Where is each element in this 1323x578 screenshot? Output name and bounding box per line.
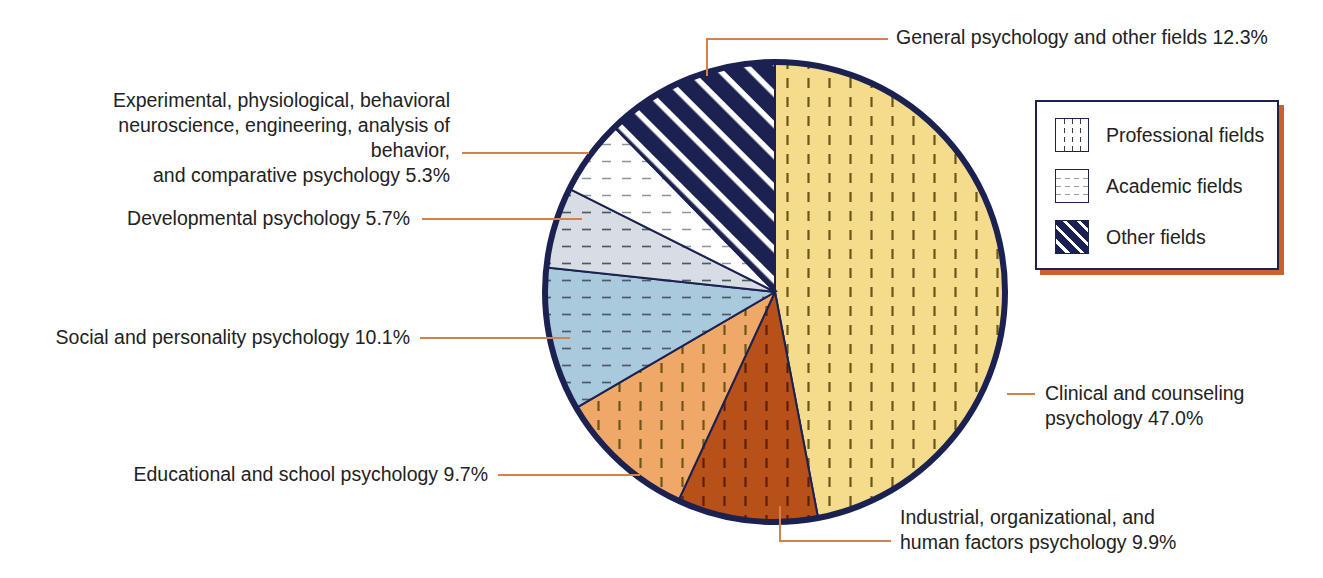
legend-swatch-professional-fields xyxy=(1055,118,1089,152)
callout-social-personality-psychology: Social and personality psychology 10.1% xyxy=(20,325,410,350)
callout-clinical-counseling-psychology: Clinical and counseling psychology 47.0% xyxy=(1045,381,1244,431)
legend-swatch-other-fields xyxy=(1055,220,1089,254)
leader-line-industrial-vertical xyxy=(779,506,781,542)
leader-line-industrial-horizontal xyxy=(779,540,891,542)
legend-label-professional-fields: Professional fields xyxy=(1106,124,1264,147)
legend-item-other-fields[interactable]: Other fields xyxy=(1055,220,1206,254)
pie-chart xyxy=(0,0,1323,578)
leader-line-general-vertical xyxy=(706,38,708,76)
callout-developmental-psychology: Developmental psychology 5.7% xyxy=(60,206,410,231)
callout-educational-school-psychology: Educational and school psychology 9.7% xyxy=(80,462,488,487)
pie-slice-pattern-1 xyxy=(775,62,1005,518)
legend-item-professional-fields[interactable]: Professional fields xyxy=(1055,118,1264,152)
leader-line-experimental xyxy=(462,152,589,154)
legend-label-academic-fields: Academic fields xyxy=(1106,175,1243,198)
legend: Professional fields Academic fields Othe… xyxy=(1035,100,1279,270)
callout-experimental-psychology: Experimental, physiological, behavioral … xyxy=(60,88,450,188)
legend-swatch-academic-fields xyxy=(1055,169,1089,203)
callout-industrial-organizational-psychology: Industrial, organizational, and human fa… xyxy=(900,505,1176,555)
chart-canvas: General psychology and other fields 12.3… xyxy=(0,0,1323,578)
leader-line-social xyxy=(420,337,570,339)
leader-line-general-horizontal xyxy=(706,38,888,40)
leader-line-educational xyxy=(498,474,640,476)
legend-item-academic-fields[interactable]: Academic fields xyxy=(1055,169,1243,203)
leader-line-developmental xyxy=(422,218,582,220)
leader-line-clinical xyxy=(1007,393,1035,395)
legend-label-other-fields: Other fields xyxy=(1106,226,1206,249)
callout-general-psychology: General psychology and other fields 12.3… xyxy=(896,25,1268,50)
